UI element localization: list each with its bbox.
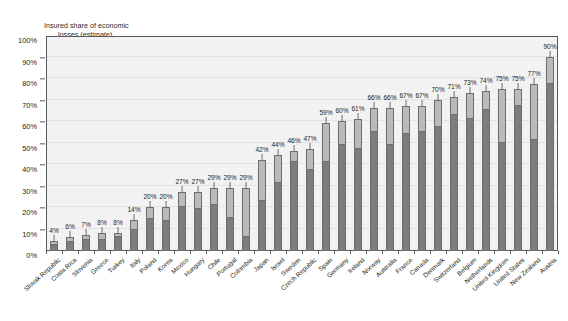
bar[interactable] <box>146 208 154 251</box>
bar-upper-segment <box>354 119 361 149</box>
bar-group[interactable]: 70% <box>430 36 446 251</box>
bar[interactable] <box>418 107 426 251</box>
bar-group[interactable]: 66% <box>366 36 382 251</box>
error-whisker <box>550 51 551 58</box>
bar-group[interactable]: 66% <box>382 36 398 251</box>
bar-upper-segment <box>370 108 377 132</box>
bar[interactable] <box>290 152 298 251</box>
bar-group[interactable]: 46% <box>286 36 302 251</box>
bar-value-label: 27% <box>191 178 204 185</box>
bar-upper-segment <box>338 121 345 145</box>
bar-group[interactable]: 14% <box>126 36 142 251</box>
bar[interactable] <box>402 107 410 251</box>
bar-group[interactable]: 6% <box>62 36 78 251</box>
error-whisker <box>262 154 263 161</box>
bar[interactable] <box>274 156 282 251</box>
error-whisker <box>534 78 535 85</box>
bar-group[interactable]: 74% <box>478 36 494 251</box>
bar-group[interactable]: 27% <box>174 36 190 251</box>
bar-value-label: 59% <box>319 109 332 116</box>
bar-value-label: 44% <box>271 141 284 148</box>
error-whisker <box>102 227 103 234</box>
bar[interactable] <box>370 109 378 251</box>
error-whisker <box>54 235 55 242</box>
bar-value-label: 47% <box>303 135 316 142</box>
bar-group[interactable]: 90% <box>542 36 558 251</box>
bar-group[interactable]: 59% <box>318 36 334 251</box>
bar-group[interactable]: 4% <box>46 36 62 251</box>
bar[interactable] <box>386 109 394 251</box>
bar-group[interactable]: 71% <box>446 36 462 251</box>
bar-value-label: 67% <box>399 92 412 99</box>
bars-layer: 4%6%7%8%8%14%20%20%27%27%29%29%29%42%44%… <box>46 36 558 251</box>
error-whisker <box>406 100 407 107</box>
bar-value-label: 29% <box>223 174 236 181</box>
bar-upper-segment <box>130 220 137 230</box>
error-whisker <box>438 94 439 101</box>
error-whisker <box>310 143 311 150</box>
bar-group[interactable]: 20% <box>142 36 158 251</box>
bar-value-label: 42% <box>255 146 268 153</box>
chart-title-line-1: Insured share of economic <box>44 21 129 30</box>
bar-group[interactable]: 75% <box>494 36 510 251</box>
bar[interactable] <box>322 124 330 251</box>
bar-upper-segment <box>546 57 553 85</box>
bar-group[interactable]: 29% <box>206 36 222 251</box>
error-whisker <box>150 201 151 208</box>
bar-upper-segment <box>290 151 297 162</box>
bar-group[interactable]: 7% <box>78 36 94 251</box>
bar[interactable] <box>498 90 506 251</box>
bar-upper-segment <box>418 106 425 132</box>
bar-upper-segment <box>258 160 265 201</box>
bar-group[interactable]: 8% <box>110 36 126 251</box>
bar[interactable] <box>178 193 186 251</box>
bar-group[interactable]: 20% <box>158 36 174 251</box>
bar[interactable] <box>226 189 234 251</box>
bar-group[interactable]: 29% <box>238 36 254 251</box>
bar-upper-segment <box>226 188 233 218</box>
error-whisker <box>326 117 327 124</box>
bar-group[interactable]: 67% <box>414 36 430 251</box>
bar-upper-segment <box>386 108 393 145</box>
bar[interactable] <box>258 161 266 251</box>
error-whisker <box>374 102 375 109</box>
bar-upper-segment <box>194 192 201 209</box>
bar-group[interactable]: 61% <box>350 36 366 251</box>
bar-group[interactable]: 47% <box>302 36 318 251</box>
bar-upper-segment <box>274 155 281 183</box>
bar-group[interactable]: 67% <box>398 36 414 251</box>
bar-upper-segment <box>466 93 473 119</box>
bar-group[interactable]: 42% <box>254 36 270 251</box>
bar[interactable] <box>434 101 442 252</box>
bar-value-label: 8% <box>97 219 107 226</box>
error-whisker <box>486 85 487 92</box>
bar[interactable] <box>450 98 458 251</box>
bar-group[interactable]: 27% <box>190 36 206 251</box>
bar-value-label: 73% <box>463 79 476 86</box>
bar-value-label: 14% <box>127 206 140 213</box>
bar[interactable] <box>514 90 522 251</box>
bar-upper-segment <box>162 207 169 221</box>
bar[interactable] <box>354 120 362 251</box>
y-tick-mark <box>40 143 45 144</box>
bar[interactable] <box>466 94 474 251</box>
error-whisker <box>214 182 215 189</box>
bar-group[interactable]: 60% <box>334 36 350 251</box>
bar-value-label: 77% <box>527 70 540 77</box>
error-whisker <box>182 186 183 193</box>
bar-group[interactable]: 29% <box>222 36 238 251</box>
bar[interactable] <box>306 150 314 251</box>
bar[interactable] <box>482 92 490 251</box>
bar-group[interactable]: 77% <box>526 36 542 251</box>
bar[interactable] <box>50 242 58 251</box>
bar-group[interactable]: 44% <box>270 36 286 251</box>
bar-upper-segment <box>434 100 441 128</box>
bar-upper-segment <box>322 123 329 162</box>
insured-share-bar-chart: Insured share of economic losses (estima… <box>0 0 568 321</box>
bar-value-label: 70% <box>431 86 444 93</box>
bar-group[interactable]: 75% <box>510 36 526 251</box>
bar-group[interactable]: 73% <box>462 36 478 251</box>
bar[interactable] <box>546 58 554 252</box>
bar-value-label: 74% <box>479 77 492 84</box>
bar-group[interactable]: 8% <box>94 36 110 251</box>
